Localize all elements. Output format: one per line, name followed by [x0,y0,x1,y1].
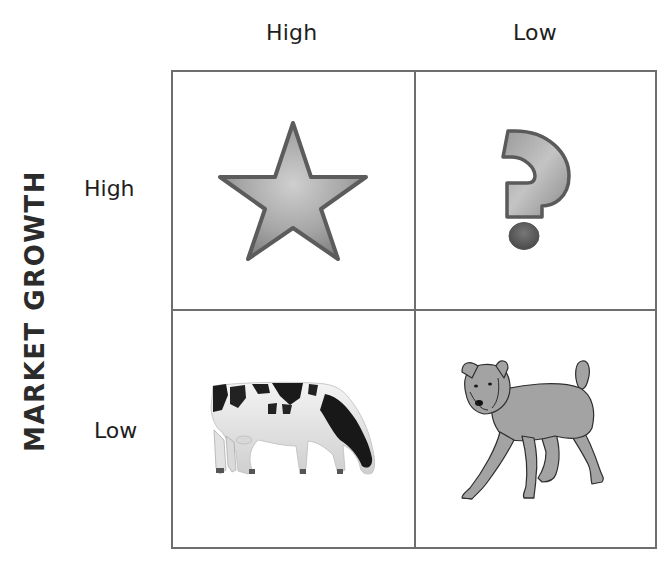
dog-icon [0,0,669,562]
